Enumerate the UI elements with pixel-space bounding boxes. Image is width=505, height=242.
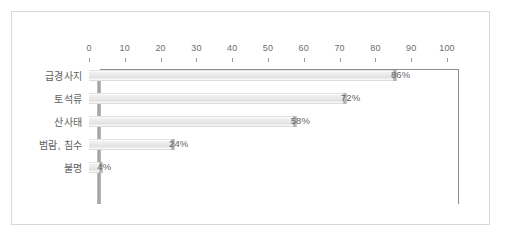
x-axis-tick-label: 30 [191,43,201,53]
bar-fill [89,116,295,127]
category-label: 산사태 [54,114,82,129]
bar-fill [89,139,173,150]
x-axis-tick [161,58,162,62]
x-axis-tick-label: 100 [439,43,455,53]
bar-fill [89,70,395,81]
x-axis-tick-label: 90 [406,43,416,53]
x-axis-tick-label: 40 [227,43,237,53]
x-axis-tick [375,58,376,62]
bar-value-label: 24% [169,138,189,149]
x-axis-tick-label: 20 [155,43,165,53]
x-axis-tick-label: 0 [86,43,91,53]
bar [89,70,397,81]
category-label: 범람, 침수 [39,137,82,152]
bar [89,93,347,104]
chart-figure: 0102030405060708090100 급경사지86%토석류72%산사태5… [0,0,505,242]
bar-row: 토석류72% [1,92,505,105]
bar-row: 급경사지86% [1,69,505,82]
x-axis-tick [340,58,341,62]
x-axis-tick [447,58,448,62]
x-axis-tick [268,58,269,62]
bar-value-label: 86% [391,69,411,80]
bar-value-label: 72% [341,92,361,103]
x-axis-tick-label: 50 [263,43,273,53]
x-axis-tick [232,58,233,62]
bar-value-label: 58% [291,115,311,126]
bar [89,139,175,150]
bar-fill [89,93,345,104]
x-axis-tick [89,58,90,62]
x-axis-max-boundary-line [458,69,459,204]
y-axis-band [97,70,101,204]
x-axis-tick-label: 80 [370,43,380,53]
bar-row: 범람, 침수24% [1,138,505,151]
x-axis-tick-label: 60 [299,43,309,53]
category-label: 토석류 [54,91,82,106]
chart-frame: 0102030405060708090100 급경사지86%토석류72%산사태5… [11,11,490,225]
x-axis-tick-label: 70 [334,43,344,53]
category-label: 급경사지 [45,68,82,83]
bar-row: 산사태58% [1,115,505,128]
x-axis-tick-label: 10 [120,43,130,53]
category-label: 불명 [64,160,82,175]
bar-row: 불명4% [1,161,505,174]
x-axis-tick [304,58,305,62]
x-axis-tick [196,58,197,62]
x-axis-tick [411,58,412,62]
bar [89,116,297,127]
bar-value-label: 4% [97,161,111,172]
x-axis-tick [125,58,126,62]
